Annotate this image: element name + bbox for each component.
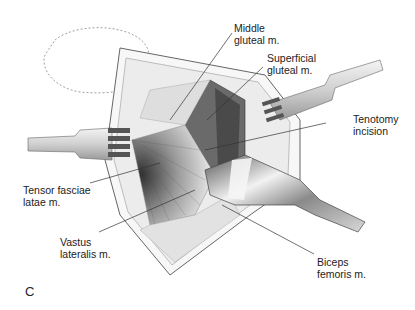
label-line: femoris m.	[317, 268, 366, 280]
label-line: Vastus	[60, 236, 111, 248]
surgical-illustration: Middle gluteal m. Superficial gluteal m.…	[0, 0, 415, 310]
label-vastus-lateralis: Vastus lateralis m.	[60, 236, 111, 260]
label-middle-gluteal: Middle gluteal m.	[234, 22, 280, 46]
label-biceps-femoris: Biceps femoris m.	[317, 256, 366, 280]
label-line: lateralis m.	[60, 248, 111, 260]
label-tensor-fasciae-latae: Tensor fasciae latae m.	[23, 184, 91, 208]
label-line: latae m.	[23, 196, 91, 208]
label-line: Tensor fasciae	[23, 184, 91, 196]
label-superficial-gluteal: Superficial gluteal m.	[267, 52, 316, 76]
left-retractor	[28, 128, 130, 160]
label-line: Biceps	[317, 256, 366, 268]
label-line: gluteal m.	[267, 64, 316, 76]
label-line: Tenotomy	[353, 113, 399, 125]
label-line: incision	[353, 125, 399, 137]
panel-letter: C	[25, 284, 34, 299]
label-line: Superficial	[267, 52, 316, 64]
label-tenotomy-incision: Tenotomy incision	[353, 113, 399, 137]
label-line: gluteal m.	[234, 34, 280, 46]
label-line: Middle	[234, 22, 280, 34]
